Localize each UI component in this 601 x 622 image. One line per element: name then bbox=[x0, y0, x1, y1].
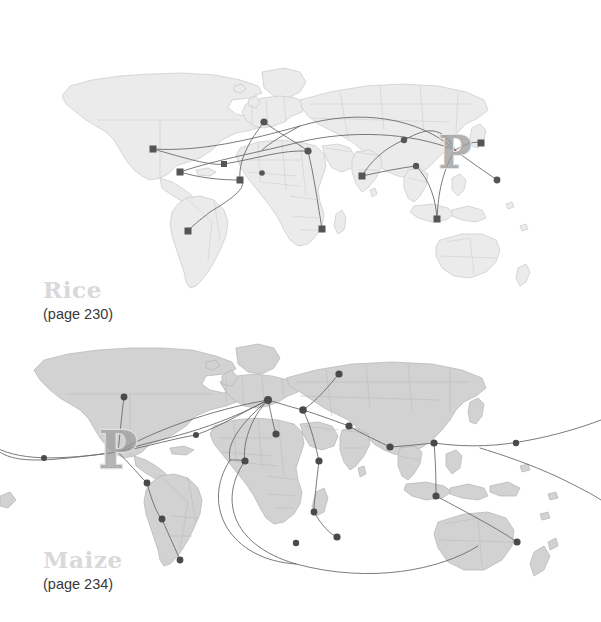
node-central-asia bbox=[401, 137, 407, 143]
caption-rice: Rice (page 230) bbox=[43, 278, 113, 322]
node-se-asia-mainland bbox=[413, 163, 419, 169]
node-southern-south-america bbox=[177, 557, 184, 564]
landmass-layer-rice bbox=[62, 68, 530, 288]
node-eastern-europe bbox=[335, 370, 342, 377]
node-brazil bbox=[185, 228, 192, 235]
crop-title-maize: Maize bbox=[43, 548, 123, 571]
node-maritime-se-asia bbox=[432, 492, 439, 499]
node-southern-africa bbox=[333, 533, 340, 540]
node-south-asia bbox=[386, 443, 393, 450]
map-panel-maize: P Maize (page 234) bbox=[0, 336, 601, 622]
node-west-africa bbox=[237, 177, 244, 184]
node-central-africa bbox=[311, 509, 318, 516]
page-root: P Rice (page 230) bbox=[0, 0, 601, 622]
node-southern-africa bbox=[319, 226, 326, 233]
caption-maize: Maize (page 234) bbox=[43, 548, 123, 592]
node-mexico bbox=[177, 169, 184, 176]
node-europe bbox=[260, 118, 267, 125]
node-maritime-se-asia bbox=[434, 216, 441, 223]
node-caribbean bbox=[144, 480, 151, 487]
node-italy-mediterranean bbox=[299, 406, 307, 414]
origin-marker-letter-rice: P bbox=[438, 127, 471, 178]
node-eastern-pacific bbox=[41, 455, 47, 461]
node-north-america bbox=[121, 394, 128, 401]
origin-marker-letter-maize: P bbox=[98, 419, 137, 480]
origin-marker-maize: P bbox=[98, 419, 137, 480]
node-iberia-western-europe bbox=[264, 396, 272, 404]
node-levant bbox=[345, 422, 352, 429]
node-south-asia bbox=[359, 173, 366, 180]
node-western-pacific bbox=[513, 440, 519, 446]
origin-marker-rice: P bbox=[438, 127, 471, 178]
node-north-africa bbox=[304, 147, 311, 154]
node-andes bbox=[159, 516, 166, 523]
crop-title-rice: Rice bbox=[43, 278, 113, 301]
node-atlantic bbox=[193, 432, 199, 438]
node-japan bbox=[478, 140, 485, 147]
node-australia bbox=[513, 538, 520, 545]
node-southeast-us bbox=[150, 146, 157, 153]
node-sahel bbox=[259, 170, 265, 176]
node-east-asia bbox=[430, 439, 437, 446]
crop-page-reference-rice: (page 230) bbox=[43, 307, 113, 322]
node-western-pacific bbox=[494, 177, 501, 184]
node-southwest-africa bbox=[293, 540, 299, 546]
map-panel-rice: P Rice (page 230) bbox=[0, 0, 601, 336]
node-east-africa-nile bbox=[315, 457, 322, 464]
node-west-africa bbox=[241, 457, 248, 464]
node-north-africa bbox=[272, 430, 279, 437]
crop-page-reference-maize: (page 234) bbox=[43, 577, 123, 592]
node-mid-atlantic bbox=[221, 161, 227, 167]
